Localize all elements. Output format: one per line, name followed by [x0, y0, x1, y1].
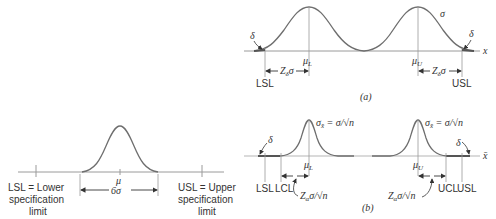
caption-a: (a) [360, 91, 372, 103]
lsl-label-a: LSL [256, 78, 274, 89]
z-right-leader-b [422, 179, 432, 197]
axis-a-label: x [482, 45, 488, 56]
delta-right-a-arrow [464, 40, 471, 49]
caption-b: (b) [362, 202, 374, 214]
ucl-label-b: UCL [438, 183, 458, 194]
z-left-label-a: Zδσ [280, 65, 295, 78]
panel-b: x̄ σx̄ = σ/√n σx̄ = σ/√n δ δ μL μU Zασ/√… [244, 117, 488, 214]
delta-right-b-arrow [462, 142, 469, 154]
lsl-label-b: LSL [256, 183, 274, 194]
usl-definition-line2: specification [178, 194, 233, 205]
mu-upper-b: μU [412, 159, 424, 172]
lsl-definition-line1: LSL = Lower [8, 182, 65, 193]
tail-right-a [462, 50, 474, 51]
delta-left-a-arrow [254, 41, 262, 49]
usl-label-b: USL [457, 183, 477, 194]
sigma-xbar-left: σx̄ = σ/√n [316, 117, 354, 130]
usl-label-a: USL [452, 78, 472, 89]
lsl-definition-line2: specification [9, 194, 64, 205]
delta-right-b: δ [456, 137, 461, 148]
delta-left-a: δ [250, 30, 255, 41]
lsl-definition-line3: limit [29, 206, 47, 217]
mu-lower-a: μL [302, 55, 312, 68]
sigma-label-a: σ [440, 8, 446, 19]
mu-upper-a: μU [411, 55, 423, 68]
delta-left-b: δ [268, 134, 273, 145]
axis-b-label: x̄ [482, 150, 488, 161]
sigma-xbar-right: σx̄ = σ/√n [425, 117, 463, 130]
usl-definition-line3: limit [198, 206, 216, 217]
usl-definition-line1: USL = Upper [178, 182, 236, 193]
delta-right-a: δ [469, 28, 474, 39]
mu-lower-b: μL [303, 159, 313, 172]
z-left-leader-b [294, 179, 298, 196]
left-figure: μ 6σ LSL = Lower specification limit USL… [8, 126, 236, 217]
delta-left-b-arrow [260, 143, 267, 154]
panel-a: x δ δ σ μL μU Zδσ Zδσ LSL USL (a) [244, 7, 488, 103]
normal-curve [82, 126, 158, 172]
z-left-label-b: Zασ/√n [300, 190, 327, 203]
lcl-label-b: LCL [275, 183, 294, 194]
process-capability-diagram: μ 6σ LSL = Lower specification limit USL… [0, 0, 496, 219]
tail-left-a [254, 50, 265, 51]
spread-label: 6σ [111, 185, 122, 196]
z-right-label-b: Zασ/√n [388, 190, 415, 203]
z-right-label-a: Zδσ [432, 65, 447, 78]
